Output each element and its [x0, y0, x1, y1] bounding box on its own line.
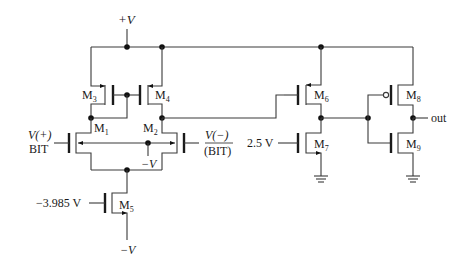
positive-supply-label: +V — [118, 12, 137, 27]
m6-label: M6 — [314, 88, 329, 104]
wire-m8-gate — [368, 95, 383, 118]
input-bitbar-label: V(−) — [205, 128, 228, 142]
m5-label: M5 — [119, 198, 134, 214]
m3-label: M3 — [82, 88, 97, 104]
ground-icon — [406, 176, 420, 182]
current-mirror-gate — [91, 92, 140, 118]
wire-m9-gate — [368, 118, 391, 143]
transistor-m6: M6 — [284, 47, 329, 118]
m8-label: M8 — [406, 88, 421, 104]
m2-label: M2 — [143, 121, 158, 137]
bias-m7-label: 2.5 V — [247, 136, 274, 150]
m7-label: M7 — [314, 137, 329, 153]
transistor-m9: M9 — [391, 118, 421, 182]
input-bitbar-name: (BIT) — [204, 144, 231, 158]
transistor-m1: M1 V(+) BIT — [28, 118, 109, 170]
body-bias: −V — [78, 140, 175, 171]
bias-m5-label: −3.985 V — [36, 196, 82, 210]
node-vplus — [124, 44, 130, 50]
transistor-m4: M4 — [140, 47, 170, 118]
arrow-icon — [148, 84, 153, 88]
m1-label: M1 — [94, 121, 109, 137]
transistor-m3: M3 — [82, 47, 113, 118]
body-bias-label: −V — [141, 157, 158, 171]
transistor-m2: M2 V(−) (BIT) — [143, 118, 233, 170]
top-rail — [91, 44, 413, 50]
transistor-m7: M7 2.5 V — [247, 118, 329, 182]
input-bit-name: BIT — [29, 142, 49, 156]
positive-supply: +V — [118, 12, 137, 47]
ground-icon — [314, 176, 328, 182]
arrow-icon — [78, 141, 83, 145]
inversion-bubble-icon — [383, 92, 388, 97]
arrow-icon — [100, 84, 105, 88]
arrow-icon — [306, 83, 311, 87]
arrow-icon — [316, 151, 321, 155]
circuit-diagram: +V M3 M4 M1 V — [0, 0, 473, 263]
transistor-m5: M5 −3.985 V −V — [36, 170, 137, 257]
transistor-m8: M8 — [383, 47, 420, 118]
wire-to-m6-gate — [162, 95, 284, 118]
negative-supply-label: −V — [120, 243, 137, 257]
arrow-icon — [170, 141, 175, 145]
m4-label: M4 — [155, 88, 170, 104]
m9-label: M9 — [406, 137, 421, 153]
output-label: out — [431, 111, 447, 125]
input-bit-label: V(+) — [28, 128, 51, 142]
